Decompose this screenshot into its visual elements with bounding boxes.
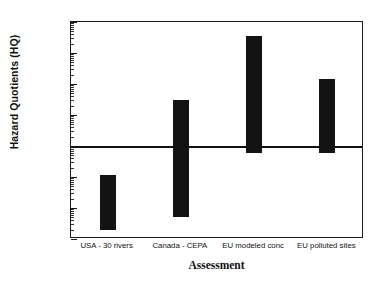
y-axis-minor-tick: [71, 199, 74, 200]
y-axis-minor-tick: [71, 87, 74, 88]
y-axis-minor-tick: [71, 137, 74, 138]
y-axis-minor-tick: [71, 127, 74, 128]
y-axis-minor-tick: [71, 189, 74, 190]
y-axis-minor-tick: [71, 23, 74, 24]
y-axis-minor-tick: [71, 58, 74, 59]
y-axis-minor-tick: [71, 31, 74, 32]
y-axis-minor-tick: [71, 182, 74, 183]
y-axis-minor-tick: [71, 151, 74, 152]
y-axis-minor-tick: [71, 62, 74, 63]
y-axis-minor-tick: [71, 27, 74, 28]
y-axis-minor-tick: [71, 184, 74, 185]
y-axis-minor-tick: [71, 217, 74, 218]
y-axis-minor-tick: [71, 60, 74, 61]
y-axis-minor-tick: [71, 155, 74, 156]
range-bar: [319, 79, 335, 152]
y-axis-minor-tick: [71, 100, 74, 101]
y-axis-title: Hazard Quotients (HQ): [8, 12, 20, 172]
y-axis-minor-tick: [71, 162, 74, 163]
y-axis-minor-tick: [71, 209, 74, 210]
y-axis-minor-tick: [71, 25, 74, 26]
x-axis-tick-label: EU modeled conc: [217, 241, 290, 250]
y-axis-minor-tick: [71, 106, 74, 107]
y-axis-minor-tick: [71, 75, 74, 76]
y-axis-minor-tick: [71, 122, 74, 123]
y-axis-minor-tick: [71, 56, 74, 57]
y-axis-minor-tick: [71, 215, 74, 216]
y-axis-minor-tick: [71, 89, 74, 90]
y-axis-minor-tick: [71, 186, 74, 187]
range-bar: [246, 36, 262, 153]
range-bar: [100, 175, 116, 230]
y-axis-minor-tick: [71, 69, 74, 70]
y-axis-minor-tick: [71, 96, 74, 97]
x-axis-tick-label: USA - 30 rivers: [70, 241, 143, 250]
y-axis-minor-tick: [71, 38, 74, 39]
hazard-quotient-chart: Hazard Quotients (HQ) 10,00010001001010.…: [0, 0, 386, 284]
y-axis-minor-tick: [71, 149, 74, 150]
y-axis-minor-tick: [71, 44, 74, 45]
y-axis-minor-tick: [71, 211, 74, 212]
y-axis-minor-tick: [71, 168, 74, 169]
y-axis-minor-tick: [71, 54, 74, 55]
y-axis-minor-tick: [71, 131, 74, 132]
y-axis-minor-tick: [71, 29, 74, 30]
plot-area: [70, 21, 363, 238]
y-axis-minor-tick: [71, 93, 74, 94]
y-axis-minor-tick: [71, 65, 74, 66]
y-axis-minor-tick: [71, 120, 74, 121]
y-axis-minor-tick: [71, 158, 74, 159]
y-axis-minor-tick: [71, 34, 74, 35]
y-axis-minor-tick: [71, 116, 74, 117]
y-axis-minor-tick: [71, 178, 74, 179]
y-axis-minor-tick: [71, 220, 74, 221]
y-axis-minor-tick: [71, 213, 74, 214]
hq-threshold-line: [71, 146, 362, 148]
x-axis-title: Assessment: [70, 259, 363, 271]
y-axis-minor-tick: [71, 230, 74, 231]
y-axis-minor-tick: [71, 180, 74, 181]
y-axis-major-tick: [71, 239, 77, 240]
range-bar: [173, 100, 189, 217]
y-axis-minor-tick: [71, 153, 74, 154]
y-axis-minor-tick: [71, 124, 74, 125]
y-axis-minor-tick: [71, 118, 74, 119]
y-axis-minor-tick: [71, 224, 74, 225]
x-axis-tick-label: EU polluted sites: [290, 241, 363, 250]
x-axis-tick-label: Canada - CEPA: [143, 241, 216, 250]
y-axis-minor-tick: [71, 85, 74, 86]
y-axis-minor-tick: [71, 193, 74, 194]
y-axis-minor-tick: [71, 91, 74, 92]
